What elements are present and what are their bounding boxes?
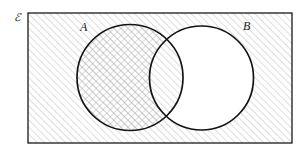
venn-diagram-figure: ℰ A B xyxy=(0,0,306,147)
set-a-label: A xyxy=(79,20,88,34)
universal-set-label: ℰ xyxy=(14,11,22,23)
venn-diagram-canvas: ℰ A B xyxy=(0,0,306,147)
set-b-label: B xyxy=(243,19,251,33)
